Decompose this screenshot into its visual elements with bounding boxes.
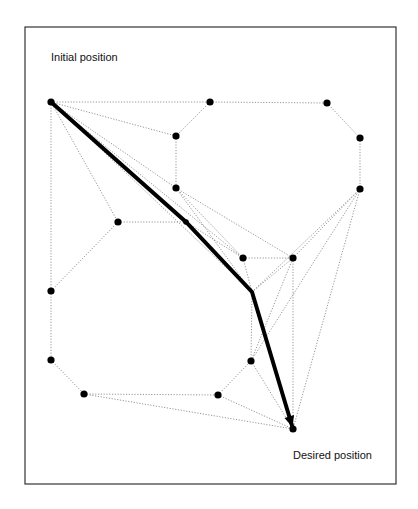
graph-node xyxy=(356,185,363,192)
goal-node xyxy=(289,425,296,432)
graph-node xyxy=(172,184,179,191)
graph-edge xyxy=(51,102,176,188)
graph-edge xyxy=(251,189,360,361)
shortest-path xyxy=(51,102,294,429)
graph-edge xyxy=(84,394,218,395)
graph-node xyxy=(206,98,213,105)
arrowhead-icon xyxy=(284,415,294,427)
graph-edge xyxy=(252,258,293,292)
graph-node xyxy=(47,356,54,363)
graph-edge xyxy=(51,102,118,222)
diagram-frame xyxy=(25,27,396,484)
graph-edge xyxy=(252,189,360,292)
graph-edges xyxy=(51,102,360,429)
graph-nodes xyxy=(47,98,363,432)
graph-edge xyxy=(176,188,293,258)
graph-edge xyxy=(176,102,210,136)
initial-position-label: Initial position xyxy=(51,51,118,63)
graph-node xyxy=(47,287,54,294)
graph-node xyxy=(80,390,87,397)
graph-node xyxy=(289,254,296,261)
start-node xyxy=(47,98,54,105)
graph-edge xyxy=(218,361,251,395)
graph-edge xyxy=(210,102,327,103)
graph-edge xyxy=(327,103,360,138)
visibility-graph-diagram xyxy=(0,0,418,509)
graph-node xyxy=(247,357,254,364)
planned-path-line xyxy=(51,102,293,429)
graph-edge xyxy=(251,292,252,361)
graph-edge xyxy=(176,188,252,292)
graph-edge xyxy=(218,395,293,429)
graph-edge xyxy=(293,189,360,258)
graph-node xyxy=(114,218,121,225)
desired-position-label: Desired position xyxy=(293,449,372,461)
graph-node xyxy=(172,132,179,139)
graph-node xyxy=(214,391,221,398)
graph-edge xyxy=(51,222,118,291)
graph-edge xyxy=(51,360,84,394)
graph-node xyxy=(323,99,330,106)
graph-node xyxy=(183,219,189,225)
graph-node xyxy=(239,254,246,261)
graph-edge xyxy=(293,189,360,429)
graph-edge xyxy=(84,394,293,429)
graph-node xyxy=(356,134,363,141)
